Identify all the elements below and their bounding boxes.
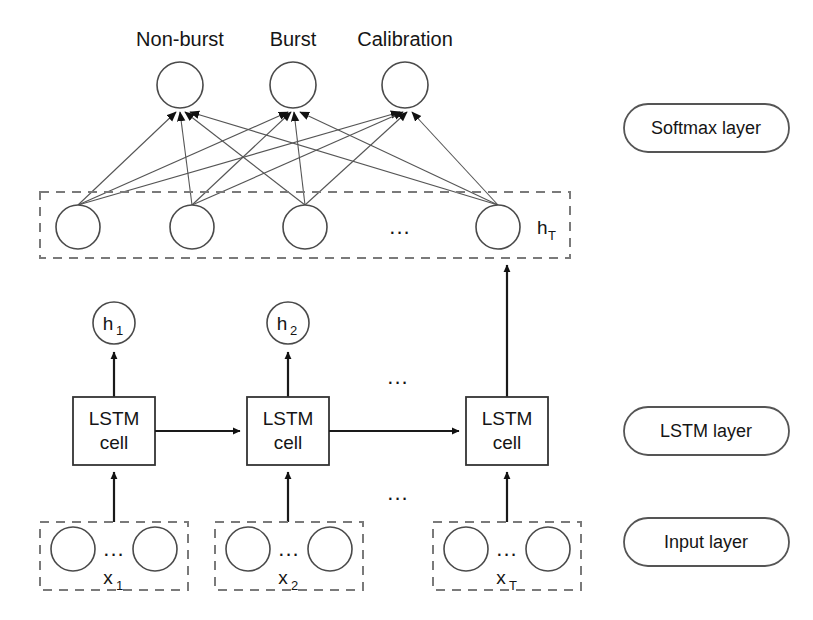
- input-node: [444, 527, 488, 571]
- input-node: [526, 527, 570, 571]
- input-label-x2: x: [278, 567, 288, 588]
- output-circle-calibration: [382, 62, 428, 108]
- hidden-node: [170, 205, 214, 249]
- hidden-output-h1: h 1: [93, 302, 135, 397]
- lstm-cell-subtitle: cell: [493, 432, 522, 453]
- lstm-cell-subtitle: cell: [274, 432, 303, 453]
- input-node: [226, 527, 270, 571]
- input-node: [308, 527, 352, 571]
- hidden-node: [56, 205, 100, 249]
- input-subscript-x1: 1: [116, 578, 123, 593]
- legend-label-input: Input layer: [664, 532, 748, 552]
- h1-subscript: 1: [116, 323, 123, 338]
- input-label-x1: x: [103, 567, 113, 588]
- input-group-ellipsis: ...: [496, 536, 517, 561]
- legend-lstm-layer: LSTM layer: [624, 407, 789, 455]
- output-label-calibration: Calibration: [357, 28, 453, 50]
- lstm-row-ellipsis-above: ...: [387, 364, 408, 389]
- input-subscript-x2: 2: [291, 578, 298, 593]
- output-node-non-burst: Non-burst: [136, 28, 224, 108]
- input-group-x2: ... x 2: [215, 522, 363, 593]
- h1-label: h: [103, 313, 114, 334]
- legend-label-lstm: LSTM layer: [660, 421, 752, 441]
- output-node-burst: Burst: [270, 28, 317, 108]
- input-group-x1: ... x 1: [40, 522, 188, 593]
- lstm-cell-3: LSTM cell: [466, 397, 548, 465]
- legend-softmax-layer: Softmax layer: [624, 104, 789, 152]
- hidden-output-h2: h 2: [267, 302, 309, 397]
- input-group-ellipsis: ...: [103, 536, 124, 561]
- hidden-node: [476, 205, 520, 249]
- lstm-architecture-diagram: Non-burst Burst Calibration ... h T: [0, 0, 813, 620]
- hidden-layer-ellipsis: ...: [389, 214, 410, 239]
- h1-circle: [93, 302, 135, 344]
- h2-circle: [267, 302, 309, 344]
- lstm-cell-subtitle: cell: [100, 432, 129, 453]
- input-group-xT: ... x T: [433, 522, 581, 593]
- input-node: [133, 527, 177, 571]
- lstm-cell-title: LSTM: [89, 408, 140, 429]
- input-subscript-xT: T: [509, 578, 517, 593]
- hidden-state-label: h: [537, 217, 548, 238]
- legend-input-layer: Input layer: [624, 518, 789, 566]
- lstm-cell-title: LSTM: [263, 408, 314, 429]
- h2-label: h: [277, 313, 288, 334]
- input-group-ellipsis: ...: [278, 536, 299, 561]
- output-node-calibration: Calibration: [357, 28, 453, 108]
- diagram-canvas: Non-burst Burst Calibration ... h T: [0, 0, 813, 620]
- input-node: [51, 527, 95, 571]
- output-label-non-burst: Non-burst: [136, 28, 224, 50]
- lstm-cell-title: LSTM: [482, 408, 533, 429]
- lstm-cell-1: LSTM cell: [73, 397, 155, 465]
- hidden-state-subscript: T: [548, 228, 556, 243]
- legend-label-softmax: Softmax layer: [651, 118, 761, 138]
- lstm-cell-2: LSTM cell: [247, 397, 329, 465]
- output-circle-burst: [270, 62, 316, 108]
- h2-subscript: 2: [290, 323, 297, 338]
- output-label-burst: Burst: [270, 28, 317, 50]
- output-circle-non-burst: [157, 62, 203, 108]
- lstm-row-ellipsis-below: ...: [387, 480, 408, 505]
- hidden-node: [283, 205, 327, 249]
- input-label-xT: x: [496, 567, 506, 588]
